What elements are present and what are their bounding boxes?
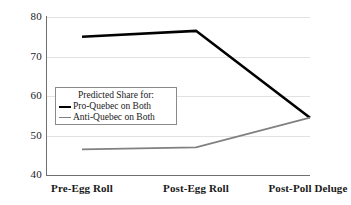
x-tick-label: Post-Egg Roll <box>163 182 229 194</box>
x-tick-label: Pre-Egg Roll <box>51 182 113 194</box>
x-tick-label: Post-Poll Deluge <box>269 182 348 194</box>
x-axis-labels: Pre-Egg Roll Post-Egg Roll Post-Poll Del… <box>46 182 310 200</box>
legend-item-label: Pro-Quebec on Both <box>73 101 151 112</box>
line-chart: 80 70 60 50 40 Predicted Share for: Pro-… <box>0 0 351 205</box>
legend-swatch-icon <box>59 106 71 108</box>
legend-swatch-icon <box>59 117 71 118</box>
legend-title: Predicted Share for: <box>56 90 176 101</box>
legend-item-label: Anti-Quebec on Both <box>73 112 155 123</box>
legend-item-anti-quebec: Anti-Quebec on Both <box>56 112 176 123</box>
legend: Predicted Share for: Pro-Quebec on Both … <box>55 87 177 125</box>
legend-item-pro-quebec: Pro-Quebec on Both <box>56 101 176 112</box>
